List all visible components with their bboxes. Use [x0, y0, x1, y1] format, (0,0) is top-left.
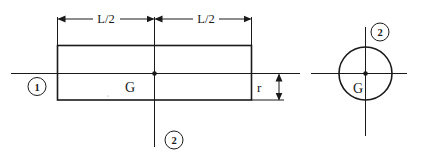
radius-label: r	[257, 80, 262, 95]
center-of-mass-dot	[152, 71, 157, 76]
end-view: G 2	[311, 23, 407, 136]
axis-1-badge-label: 1	[34, 82, 39, 93]
end-view-center-label-g: G	[353, 81, 363, 96]
axis-2-badge-end: 2	[371, 23, 389, 41]
axis-2-badge-end-label: 2	[377, 27, 382, 38]
dimension-label-right: L/2	[197, 12, 214, 26]
center-label-g: G	[125, 80, 135, 95]
cylinder-diagram: L/2 L/2 G r 1 2 G 2	[0, 0, 422, 160]
axis-1-badge: 1	[28, 78, 46, 96]
dimension-label-left: L/2	[97, 12, 114, 26]
axis-2-badge-side: 2	[165, 131, 183, 149]
axis-2-badge-side-label: 2	[171, 135, 176, 146]
speck	[107, 95, 108, 96]
side-view: L/2 L/2 G r 1 2	[11, 12, 300, 149]
end-view-center-dot	[363, 71, 368, 76]
